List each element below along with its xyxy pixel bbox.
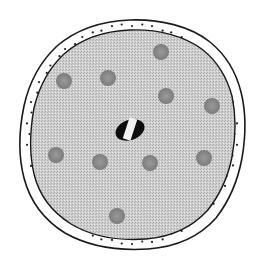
granule — [142, 155, 158, 171]
membrane-dot — [92, 31, 94, 33]
membrane-dot — [30, 111, 32, 113]
membrane-dot — [38, 81, 40, 83]
membrane-dot — [131, 243, 133, 245]
membrane-dot — [100, 238, 102, 240]
membrane-dot — [236, 144, 238, 146]
membrane-dot — [100, 30, 102, 32]
granule — [56, 73, 72, 89]
granule — [158, 88, 174, 104]
membrane-dot — [162, 238, 164, 240]
granule — [153, 44, 169, 60]
granule — [109, 208, 125, 224]
membrane-dot — [64, 48, 66, 50]
granule — [196, 150, 212, 166]
granule — [48, 147, 64, 163]
membrane-dot — [141, 23, 143, 25]
membrane-dot — [49, 64, 51, 66]
membrane-dot — [30, 101, 32, 103]
membrane-dot — [131, 25, 133, 27]
membrane-dot — [92, 235, 94, 237]
membrane-dot — [111, 239, 113, 241]
membrane-dot — [224, 185, 226, 187]
membrane-dot — [26, 144, 28, 146]
granule — [204, 98, 220, 114]
membrane-dot — [111, 25, 113, 27]
membrane-dot — [26, 122, 28, 124]
membrane-dot — [121, 23, 123, 25]
cell-diagram — [0, 0, 260, 265]
membrane-dot — [162, 30, 164, 32]
membrane-dot — [232, 164, 234, 166]
membrane-dot — [121, 242, 123, 244]
membrane-dot — [236, 122, 238, 124]
membrane-dot — [141, 240, 143, 242]
membrane-dot — [170, 31, 172, 33]
membrane-dot — [151, 25, 153, 27]
membrane-dot — [81, 36, 83, 38]
granule — [100, 70, 116, 86]
membrane-dot — [151, 241, 153, 243]
granule — [92, 154, 108, 170]
